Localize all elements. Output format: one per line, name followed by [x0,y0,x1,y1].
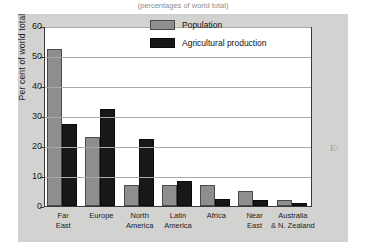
bar-agricultural-production [215,199,230,207]
y-tick-mark-20 [40,147,44,148]
bar-agricultural-production [139,139,154,207]
y-tick-label-40: 40 [20,81,42,91]
bar-agricultural-production [292,203,307,206]
y-tick-mark-60 [40,27,44,28]
y-tick-label-0: 0 [20,201,42,211]
bar-population [124,185,139,206]
bar-agricultural-production [100,109,115,207]
y-tick-mark-50 [40,57,44,58]
plot-area [44,27,312,207]
y-tick-mark-40 [40,87,44,88]
y-tick-mark-30 [40,117,44,118]
y-tick-label-60: 60 [20,21,42,31]
legend-label-agricultural-production: Agricultural production [182,38,267,48]
gridline-30 [45,117,311,118]
population-swatch [150,20,175,30]
gridline-40 [45,87,311,88]
y-tick-mark-10 [40,177,44,178]
chart-figure: (percentages of world total) Per cent of… [0,0,366,248]
bar-population [238,191,253,206]
x-axis-label-line: America [153,221,203,231]
bar-population [200,185,215,206]
chart-title: (percentages of world total) [18,0,348,12]
x-axis-label-line: & N. Zealand [268,221,318,231]
chart-legend: Population Agricultural production [150,17,267,53]
bar-agricultural-production [62,124,77,207]
x-axis-label-australia-n-zealand: Australia& N. Zealand [268,211,318,230]
y-tick-mark-0 [40,207,44,208]
bar-agricultural-production [253,200,268,206]
gridline-20 [45,147,311,148]
y-tick-label-20: 20 [20,141,42,151]
agricultural-production-swatch [150,38,175,48]
margin-mark: E/ [330,143,338,153]
x-axis-label-line: East [38,221,88,231]
bar-population [162,185,177,206]
legend-item-population: Population [150,17,267,32]
bar-population [47,49,62,207]
legend-label-population: Population [182,20,222,30]
x-axis-label-line: Australia [268,211,318,221]
gridline-50 [45,57,311,58]
legend-item-agricultural-production: Agricultural production [150,35,267,50]
y-tick-label-50: 50 [20,51,42,61]
y-tick-label-30: 30 [20,111,42,121]
gridline-10 [45,177,311,178]
y-tick-label-10: 10 [20,171,42,181]
bar-agricultural-production [177,181,192,207]
bar-population [277,200,292,206]
y-axis-title: Per cent of world total [17,0,27,127]
